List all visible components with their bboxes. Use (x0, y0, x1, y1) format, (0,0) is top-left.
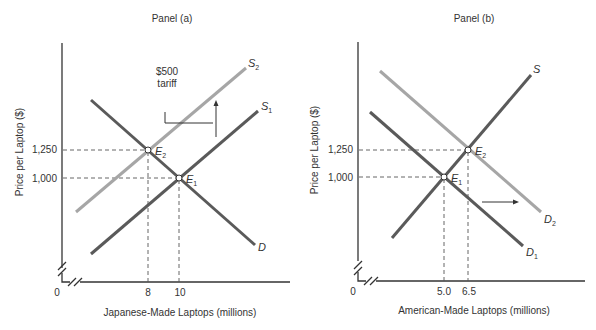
panel-a-label-e1: E1 (186, 173, 197, 187)
panel-a-guides (63, 150, 179, 282)
panel-a-curve-s1 (91, 111, 258, 254)
panel-a-x-tick-8: 8 (145, 287, 151, 298)
panel-a-label-d: D (258, 241, 266, 253)
panel-a-label-e2: E2 (155, 145, 166, 159)
panel-a-y-tick-1250: 1,250 (32, 144, 57, 155)
panel-a-point-e1 (176, 175, 182, 181)
panel-b: Panel (b) 0 5.0 6.5 1,250 1,000 American… (309, 13, 585, 316)
panel-b-label-e2: E2 (475, 145, 486, 159)
panel-b-label-d1: D1 (526, 246, 538, 260)
panel-a-label-s2: S2 (248, 57, 259, 71)
panel-a-x-tick-10: 10 (174, 287, 186, 298)
panel-a-tariff-label-1: $500 (156, 66, 179, 77)
panel-b-x-label: American-Made Laptops (millions) (398, 305, 550, 316)
panel-b-label-e1: E1 (451, 172, 462, 186)
panel-b-x-tick-6-5: 6.5 (462, 286, 476, 297)
panel-a-origin: 0 (54, 287, 60, 298)
panel-b-y-label: Price per Laptop ($) (309, 106, 320, 194)
panel-b-point-e1 (441, 174, 447, 180)
panel-b-title: Panel (b) (454, 13, 495, 24)
panel-a-curve-d (91, 100, 255, 245)
panel-a-tariff-label-2: tariff (157, 78, 176, 89)
panel-a-title: Panel (a) (152, 13, 193, 24)
panel-a-x-label: Japanese-Made Laptops (millions) (104, 307, 257, 318)
panel-b-y-tick-1000: 1,000 (328, 172, 353, 183)
panel-b-label-s: S (533, 63, 541, 75)
panel-b-point-e2 (465, 147, 471, 153)
panel-a-curve-s2 (76, 68, 246, 212)
chart-canvas: Panel (a) 0 8 10 1,250 1,000 Japanese-Ma… (0, 0, 596, 330)
panel-a: Panel (a) 0 8 10 1,250 1,000 Japanese-Ma… (14, 13, 290, 318)
panel-a-label-s1: S1 (261, 100, 272, 114)
panel-a-point-e2 (145, 147, 151, 153)
panel-b-x-tick-5: 5.0 (437, 286, 451, 297)
panel-a-y-tick-1000: 1,000 (32, 173, 57, 184)
panel-a-y-label: Price per Laptop ($) (14, 108, 25, 196)
panel-b-label-d2: D2 (544, 213, 556, 227)
panel-b-y-tick-1250: 1,250 (328, 144, 353, 155)
panel-b-origin: 0 (350, 286, 356, 297)
